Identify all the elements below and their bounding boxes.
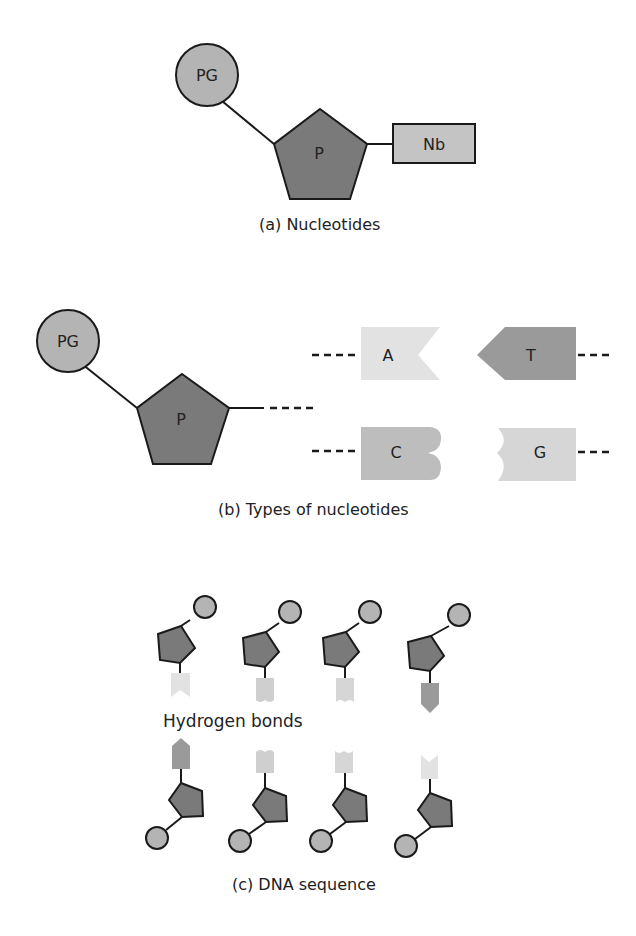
phosphate-label: PG <box>196 66 218 85</box>
base-adenine: A <box>312 327 440 380</box>
hydrogen-bonds-label: Hydrogen bonds <box>163 711 303 731</box>
base-label-a: A <box>383 346 394 365</box>
base-label: Nb <box>423 135 445 154</box>
bottom-nucleotide-3 <box>310 751 367 852</box>
top-nucleotide-2 <box>243 601 301 702</box>
caption-panel-a: (a) Nucleotides <box>259 215 380 234</box>
top-strand <box>158 596 470 713</box>
bottom-nucleotide-2 <box>229 750 287 852</box>
base-thymine: T <box>477 327 612 380</box>
bottom-strand <box>146 738 452 857</box>
phosphate-label: PG <box>57 332 79 351</box>
top-nucleotide-1 <box>158 596 216 697</box>
base-label-t: T <box>525 346 536 365</box>
caption-panel-b: (b) Types of nucleotides <box>218 500 409 519</box>
sugar-label: P <box>314 144 324 163</box>
bottom-nucleotide-1 <box>146 738 203 849</box>
base-guanine: G <box>497 428 612 481</box>
panel-a-nucleotide: PG P Nb <box>176 44 475 199</box>
panel-b-generic-nucleotide: PG P <box>37 310 318 464</box>
sugar-label: P <box>176 410 186 429</box>
diagram-canvas: PG P Nb PG P A T C G <box>0 0 636 936</box>
top-nucleotide-4 <box>408 604 470 713</box>
bottom-nucleotide-4 <box>395 755 452 857</box>
base-label-g: G <box>534 443 546 462</box>
caption-panel-c: (c) DNA sequence <box>232 875 376 894</box>
base-label-c: C <box>390 443 401 462</box>
base-cytosine: C <box>312 427 441 480</box>
top-nucleotide-3 <box>323 601 381 702</box>
